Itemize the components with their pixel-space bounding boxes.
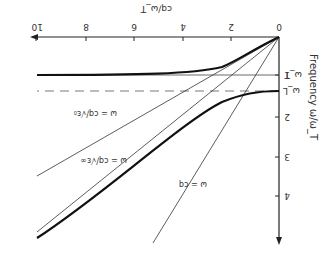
omega-t-label: ω_T: [284, 70, 302, 80]
upper-polariton-branch: [37, 37, 279, 75]
x-tick-label-10: 10: [31, 22, 43, 32]
x-tick-label-4: 4: [180, 22, 186, 32]
y-tick-label-3: 3: [284, 152, 290, 162]
y-ticks: [275, 75, 279, 196]
polariton-diagram: 0 2 4 6 8 10 cq/ω_T 1 2 3 4 ω_T ω_L Freq…: [0, 0, 332, 254]
diagram-svg: 0 2 4 6 8 10 cq/ω_T 1 2 3 4 ω_T ω_L Freq…: [0, 0, 332, 254]
x-tick-label-0: 0: [276, 22, 282, 32]
annotation-eps0: ω = cq/√ε₀: [74, 109, 117, 118]
y-axis-arrow-icon: [276, 237, 282, 245]
y-tick-label-4: 4: [284, 191, 290, 201]
y-tick-label-2: 2: [284, 112, 290, 122]
line-epsinf: [37, 37, 279, 232]
x-axis-label: cq/ω_T: [140, 4, 172, 14]
y-axis-label: Frequency ω/ω_T: [307, 54, 319, 141]
x-axis-arrow-icon: [30, 34, 38, 40]
annotation-epsinf: ω = cq/√ε∞: [80, 156, 127, 165]
x-tick-label-6: 6: [131, 22, 137, 32]
omega-l-label: ω_L: [283, 86, 300, 96]
annotation-cq: ω = cq: [179, 180, 207, 189]
x-tick-label-2: 2: [228, 22, 234, 32]
x-tick-label-8: 8: [83, 22, 89, 32]
lower-polariton-branch: [37, 91, 279, 238]
line-eps0: [37, 37, 279, 176]
